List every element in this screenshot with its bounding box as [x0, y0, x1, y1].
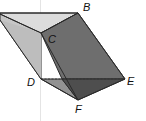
prism-diagram: B C D E F: [0, 0, 146, 121]
label-b: B: [83, 1, 90, 13]
label-c: C: [48, 33, 56, 45]
label-f: F: [75, 103, 83, 115]
label-e: E: [127, 75, 135, 87]
label-d: D: [27, 76, 35, 88]
